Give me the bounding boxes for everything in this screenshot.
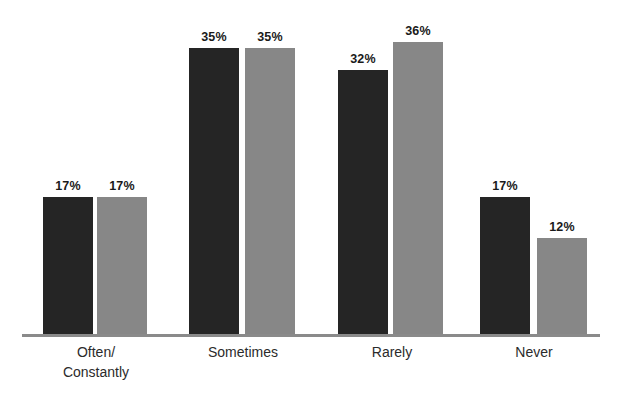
x-axis-label-never: Never [444, 342, 619, 362]
bar-value-sometimes-series-a: 35% [189, 30, 239, 44]
x-axis-label-rarely-line1: Rarely [372, 344, 412, 360]
bar-often-constantly-series-a [43, 197, 93, 335]
bar-sometimes-series-b [245, 48, 295, 335]
bar-rarely-series-b [393, 42, 443, 335]
bar-value-rarely-series-a: 32% [338, 52, 388, 66]
bar-rarely-series-a [338, 70, 388, 335]
bar-often-constantly-series-b [97, 197, 147, 335]
bar-never-series-a [480, 197, 530, 335]
bar-value-never-series-b: 12% [537, 220, 587, 234]
bar-value-often-constantly-series-b: 17% [97, 179, 147, 193]
x-axis-label-never-line1: Never [515, 344, 552, 360]
x-axis-label-sometimes-line1: Sometimes [208, 344, 278, 360]
plot-area: 17% 17% 35% 35% 32% 36% 17% 12% Often/ C… [0, 0, 619, 393]
bar-value-never-series-a: 17% [480, 179, 530, 193]
x-axis-line [22, 334, 600, 337]
bar-value-sometimes-series-b: 35% [245, 30, 295, 44]
bar-chart: 17% 17% 35% 35% 32% 36% 17% 12% Often/ C… [0, 0, 619, 393]
x-axis-label-often-constantly-line2: Constantly [6, 362, 186, 382]
bar-value-often-constantly-series-a: 17% [43, 179, 93, 193]
bar-never-series-b [537, 238, 587, 335]
x-axis-label-often-constantly-line1: Often/ [77, 344, 115, 360]
bar-sometimes-series-a [189, 48, 239, 335]
bar-value-rarely-series-b: 36% [393, 24, 443, 38]
